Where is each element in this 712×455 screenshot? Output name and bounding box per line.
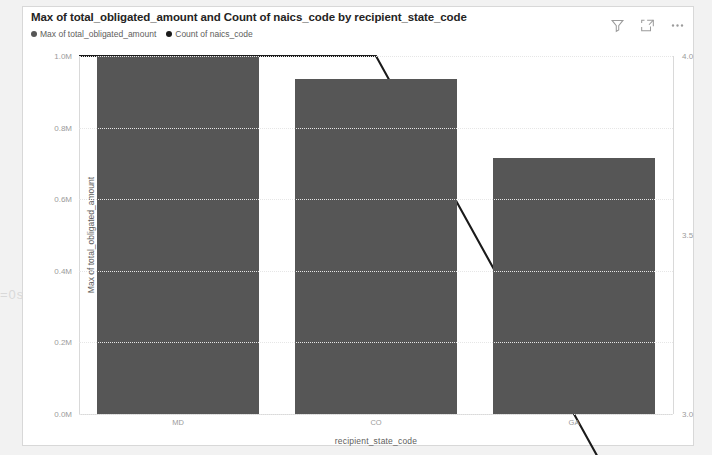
plot-frame: Max of total_obligated_amount Count of n… (79, 56, 673, 414)
y-axis-tick-left: 0.8M (54, 123, 72, 132)
x-axis-tick-md: MD (172, 418, 184, 427)
y-axis-tick-left: 0.4M (54, 266, 72, 275)
x-axis-title: recipient_state_code (79, 436, 673, 446)
y-axis-tick-right: 4.0 (682, 52, 693, 61)
gridline (79, 56, 673, 58)
gridline (79, 199, 673, 201)
legend-marker-dot (31, 31, 37, 37)
legend-item-max-total-obligated-amount[interactable]: Max of total_obligated_amount (31, 29, 156, 39)
more-options-icon[interactable] (669, 17, 685, 33)
x-axis-tick-ga: GA (569, 418, 580, 427)
y-axis-tick-right: 3.5 (682, 231, 693, 240)
legend-label: Count of naics_code (175, 29, 253, 39)
legend-item-count-of-naics-code[interactable]: Count of naics_code (166, 29, 253, 39)
chart-legend: Max of total_obligated_amount Count of n… (31, 29, 253, 39)
gridline (79, 271, 673, 273)
gridline (79, 414, 673, 416)
visual-header-icons (609, 17, 685, 33)
x-axis-tick-co: CO (370, 418, 381, 427)
focus-mode-icon[interactable] (639, 17, 655, 33)
bar-md[interactable] (97, 56, 259, 414)
y-axis-tick-left: 0.6M (54, 195, 72, 204)
legend-label: Max of total_obligated_amount (40, 29, 156, 39)
y-axis-tick-left: 0.2M (54, 338, 72, 347)
y-axis-tick-left: 1.0M (54, 52, 72, 61)
filter-icon[interactable] (609, 17, 625, 33)
y-axis-line-right (673, 56, 674, 414)
page-title: Max of total_obligated_amount and Count … (31, 11, 467, 23)
bar-ga[interactable] (493, 158, 655, 414)
plot-area (79, 56, 673, 414)
legend-marker-dot (166, 31, 172, 37)
y-axis-tick-left: 0.0M (54, 410, 72, 419)
y-axis-tick-right: 3.0 (682, 410, 693, 419)
chart-visual-card: Max of total_obligated_amount and Count … (22, 6, 694, 446)
gridline (79, 342, 673, 344)
background-artifact: =0s: (0, 285, 18, 304)
gridline (79, 128, 673, 130)
